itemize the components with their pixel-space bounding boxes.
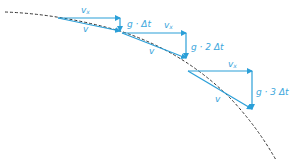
- v-label-2: v: [149, 47, 154, 56]
- vx-label-2: vx: [164, 21, 173, 30]
- vector-step-1: [58, 18, 120, 31]
- trajectory-curve: [5, 12, 276, 160]
- vx-label-1: vx: [81, 6, 90, 15]
- v-arrow: [58, 18, 120, 31]
- v-label-3: v: [215, 95, 220, 104]
- g-label-3: g · 3 Δt: [256, 88, 289, 97]
- vx-label-3: vx: [228, 60, 237, 69]
- v-label-1: v: [83, 25, 88, 34]
- g-label-2: g · 2 Δt: [191, 43, 224, 52]
- g-label-1: g · Δt: [127, 20, 151, 29]
